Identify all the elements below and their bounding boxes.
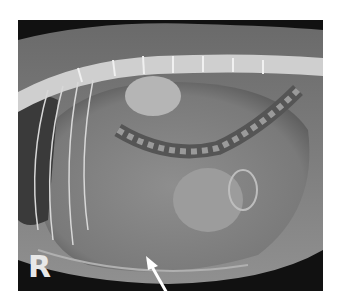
radiograph: R [18,20,323,291]
orientation-marker: R [28,252,51,282]
radiograph-drawing [18,20,323,291]
